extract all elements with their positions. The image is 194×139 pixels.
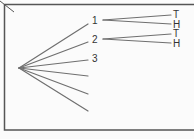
branch-2-T — [103, 34, 171, 39]
leaf-label-2-H: H — [173, 38, 180, 49]
node-label-3: 3 — [92, 53, 98, 64]
node-label-2: 2 — [92, 34, 98, 45]
branch-1-T — [103, 15, 171, 20]
tree-diagram-canvas: 1 2 3 T H T H — [0, 0, 194, 139]
branch-2-H — [103, 39, 171, 43]
corner-stub-line — [0, 1, 14, 12]
tree-diagram: 1 2 3 T H T H — [0, 0, 194, 139]
node-label-1: 1 — [92, 15, 98, 26]
branch-1-H — [103, 20, 171, 24]
first-level-branches — [19, 24, 88, 111]
second-level-branches — [103, 15, 171, 43]
